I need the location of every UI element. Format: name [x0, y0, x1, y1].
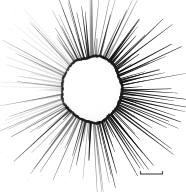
micrograph-figure: [0, 0, 186, 192]
specimen-micrograph-canvas: [0, 0, 186, 192]
